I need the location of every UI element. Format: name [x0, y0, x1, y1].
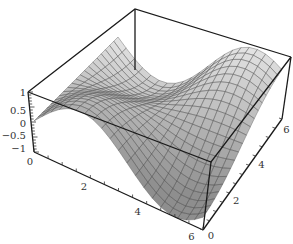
x-tick-label: 6 [188, 231, 194, 242]
tick [246, 164, 249, 165]
tick [240, 174, 243, 175]
tick [266, 137, 269, 138]
z-tick-label: −0.5 [2, 130, 26, 141]
surface-plot: 10.50−0.5−102460246 [0, 0, 293, 244]
tick [220, 201, 223, 202]
tick [253, 155, 256, 156]
surface-mesh [34, 37, 282, 220]
x-tick-label: 2 [81, 181, 87, 192]
x-tick-label: 4 [134, 206, 140, 217]
z-tick-label: 0 [20, 118, 26, 129]
tick [226, 192, 229, 193]
z-tick-label: 1 [20, 87, 26, 98]
z-tick-label: 0.5 [10, 105, 26, 116]
y-tick-label: 6 [283, 124, 289, 135]
tick [213, 211, 216, 212]
y-tick-label: 0 [208, 230, 214, 241]
x-tick-label: 0 [27, 156, 33, 167]
y-tick-label: 4 [258, 159, 264, 170]
tick [272, 127, 275, 128]
tick [259, 146, 262, 147]
z-tick-label: −1 [11, 143, 26, 154]
y-tick-label: 2 [233, 195, 239, 206]
surface-cell [34, 112, 47, 121]
tick [207, 220, 210, 221]
tick [233, 183, 236, 184]
